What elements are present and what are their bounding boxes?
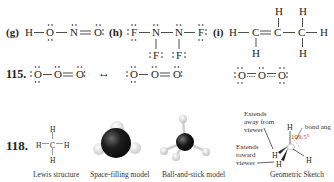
caption-geometric-sketch: Geometric Sketch: [270, 170, 324, 179]
sketch-bonds: [0, 0, 334, 182]
